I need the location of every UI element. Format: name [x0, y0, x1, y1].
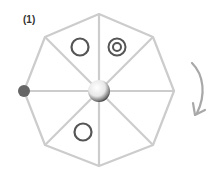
octagon-diagram	[0, 0, 224, 172]
anchor-dot	[18, 85, 30, 97]
rotation-arrow-icon	[192, 63, 205, 115]
ring-marker-bottom-left	[75, 124, 92, 141]
ring-marker-top-left	[72, 39, 89, 56]
center-sphere	[88, 80, 110, 102]
double-ring-marker-top-right	[109, 39, 126, 56]
